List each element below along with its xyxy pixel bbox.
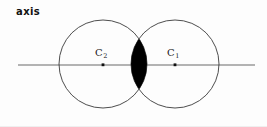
figure-bottom-edge: [0, 126, 267, 127]
geometry-diagram: [0, 0, 267, 127]
center-label-c1: C1: [167, 47, 179, 60]
figure-container: axis C2 C1: [0, 0, 267, 127]
center-label-c2-letter: C: [95, 47, 103, 58]
center-label-c1-subscript: 1: [175, 52, 180, 60]
center-label-c2: C2: [95, 47, 107, 60]
center-label-c1-letter: C: [167, 47, 175, 58]
center-dot-c1: [174, 63, 177, 66]
center-dot-c2: [102, 63, 105, 66]
center-label-c2-subscript: 2: [103, 52, 108, 60]
axis-text-label: axis: [16, 6, 40, 18]
